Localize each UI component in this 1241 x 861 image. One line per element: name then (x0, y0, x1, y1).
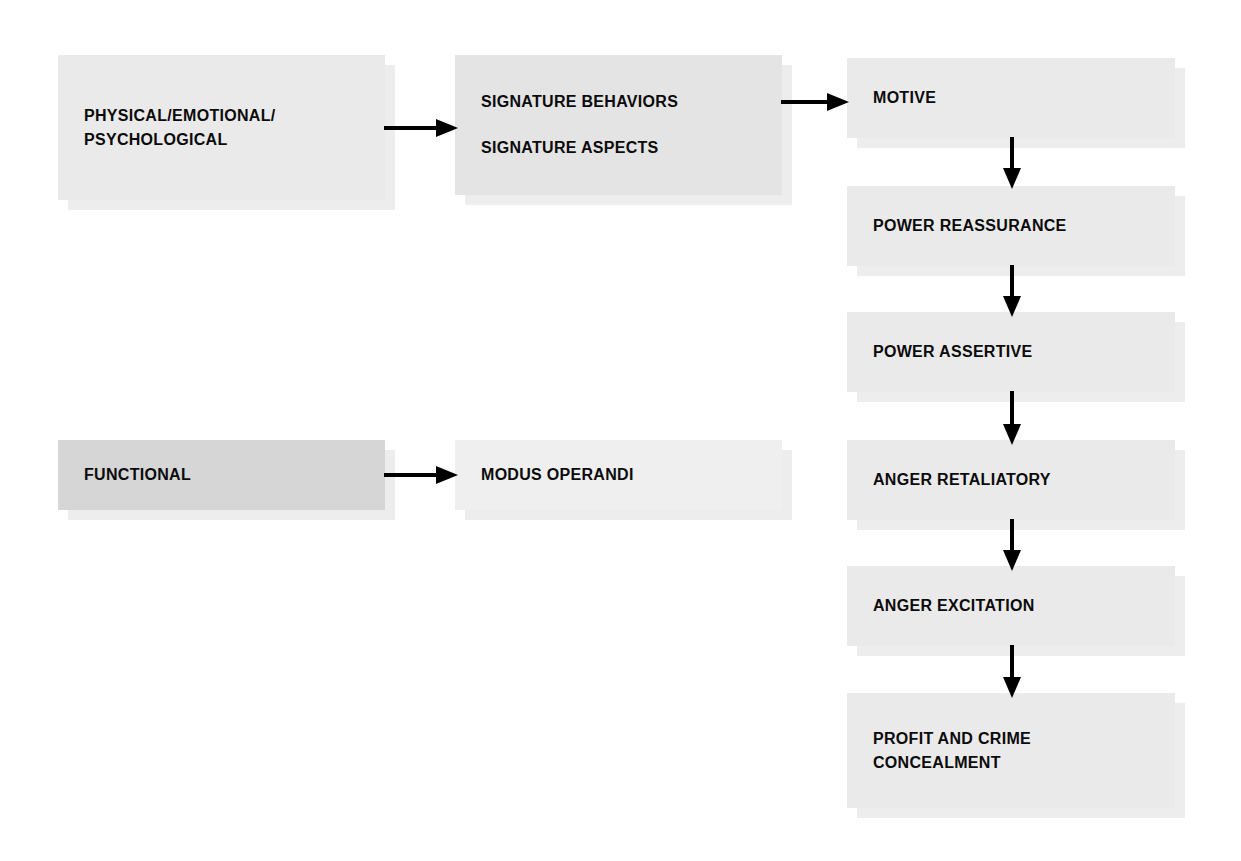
node-label: PROFIT AND CRIME CONCEALMENT (847, 729, 1175, 773)
node-label-line-2: PSYCHOLOGICAL (84, 130, 371, 150)
arrow-motive-to-power-reassurance (1001, 137, 1023, 189)
arrow-physical-to-signature (384, 117, 458, 139)
node-label-line-1: POWER REASSURANCE (873, 216, 1161, 236)
node-label-line-1: ANGER EXCITATION (873, 596, 1161, 616)
node-motive[interactable]: MOTIVE (847, 58, 1175, 138)
node-label: PHYSICAL/EMOTIONAL/ PSYCHOLOGICAL (58, 106, 385, 150)
node-label: MOTIVE (847, 88, 1175, 108)
node-physical-emotional-psychological[interactable]: PHYSICAL/EMOTIONAL/ PSYCHOLOGICAL (58, 55, 385, 200)
node-label: ANGER RETALIATORY (847, 470, 1175, 490)
node-label-line-1: PROFIT AND CRIME (873, 729, 1161, 749)
node-power-reassurance[interactable]: POWER REASSURANCE (847, 186, 1175, 266)
node-label-line-1: ANGER RETALIATORY (873, 470, 1161, 490)
node-label: ANGER EXCITATION (847, 596, 1175, 616)
node-label-line-1: FUNCTIONAL (84, 465, 371, 485)
flowchart-canvas: PHYSICAL/EMOTIONAL/ PSYCHOLOGICAL FUNCTI… (0, 0, 1241, 861)
arrow-anger-excitation-to-profit-and-crime-concealment (1001, 645, 1023, 698)
node-profit-and-crime-concealment[interactable]: PROFIT AND CRIME CONCEALMENT (847, 693, 1175, 808)
node-label: FUNCTIONAL (58, 465, 385, 485)
node-label-line-1: MODUS OPERANDI (481, 465, 768, 485)
node-label-line-1: SIGNATURE BEHAVIORS (481, 92, 768, 112)
arrow-functional-to-modus-operandi (384, 464, 458, 486)
arrow-signature-to-motive (781, 91, 849, 113)
node-label-line-1: PHYSICAL/EMOTIONAL/ (84, 106, 371, 126)
node-anger-excitation[interactable]: ANGER EXCITATION (847, 566, 1175, 646)
node-anger-retaliatory[interactable]: ANGER RETALIATORY (847, 440, 1175, 520)
node-power-assertive[interactable]: POWER ASSERTIVE (847, 312, 1175, 392)
node-label-line-2: CONCEALMENT (873, 753, 1161, 773)
arrow-anger-retaliatory-to-anger-excitation (1001, 519, 1023, 571)
node-label-line-1: MOTIVE (873, 88, 1161, 108)
node-label-line-2: SIGNATURE ASPECTS (481, 138, 768, 158)
node-label-line-1: POWER ASSERTIVE (873, 342, 1161, 362)
node-signature[interactable]: SIGNATURE BEHAVIORS SIGNATURE ASPECTS (455, 55, 782, 195)
arrow-power-assertive-to-anger-retaliatory (1001, 391, 1023, 445)
node-label: POWER ASSERTIVE (847, 342, 1175, 362)
arrow-power-reassurance-to-power-assertive (1001, 265, 1023, 317)
node-modus-operandi[interactable]: MODUS OPERANDI (455, 440, 782, 510)
node-functional[interactable]: FUNCTIONAL (58, 440, 385, 510)
node-label: MODUS OPERANDI (455, 465, 782, 485)
node-label: POWER REASSURANCE (847, 216, 1175, 236)
node-label: SIGNATURE BEHAVIORS SIGNATURE ASPECTS (455, 92, 782, 158)
